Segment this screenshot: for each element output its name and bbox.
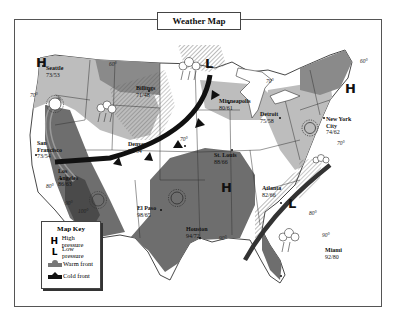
low-pressure-icon: L [288,196,296,211]
city-label-miami: Miami92/80 [325,247,342,260]
city-label-billings: Billings71/48 [136,85,155,98]
storm-cloud-icon [313,155,329,164]
isotherm-label: 60° [360,58,368,64]
legend-item-warm-front: Warm front [47,258,95,270]
map-key: Map Key H High pressure L Low pressure W… [41,221,101,289]
storm-cloud-icon [279,229,299,253]
high-pressure-icon: H [221,180,232,195]
high-pressure-icon: H [47,236,62,246]
city-label-minneapolis: Minneapolis80/61 [219,98,251,111]
warm-front-icon [47,260,63,267]
map-title: Weather Map [157,12,241,30]
isotherm-label: 80° [46,183,54,189]
city-label-st-louis: St. Louis88/66 [214,152,237,165]
isotherm-label: 70° [337,140,345,146]
legend-item-cold-front: Cold front [47,270,95,282]
isotherm-label: 80° [309,210,317,216]
city-label-seattle: Seattle73/53 [46,65,63,78]
isotherm-label: 100° [78,208,88,214]
isotherm-label: 70° [180,136,188,142]
low-pressure-icon: L [47,247,62,257]
isotherm-label: 90° [219,235,227,241]
legend-item-low-pressure: L Low pressure [47,247,95,259]
isotherm-label: 90° [322,232,330,238]
city-label-el-paso: El Paso98/65 [137,205,156,218]
map-key-title: Map Key [47,225,95,233]
isotherm-label: 60° [109,61,117,67]
city-label-houston: Houston94/72 [186,226,208,239]
city-label-los-angeles: LosAngeles86/63 [58,168,78,188]
city-label-new-york: New YorkCity74/62 [326,116,351,136]
city-label-denver: Denver75/54 [128,141,147,154]
low-pressure-icon: L [205,56,213,71]
city-label-detroit: Detroit75/58 [260,111,278,124]
city-label-san-francisco: SanFrancisco73/54 [37,140,62,160]
high-pressure-icon: H [345,81,356,96]
cold-front-icon [47,272,63,279]
isotherm-label: 90° [65,200,73,206]
isotherm-label: 70° [30,92,38,98]
isotherm-label: 70° [266,78,274,84]
city-label-atlanta: Atlanta82/66 [262,185,281,198]
